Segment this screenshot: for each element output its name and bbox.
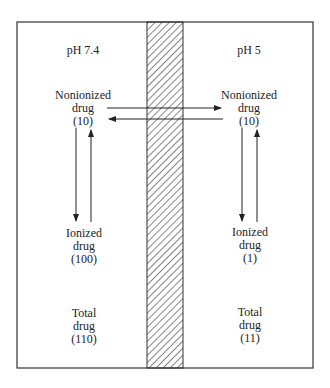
right-ionized-label: Ionized drug (1) xyxy=(200,226,300,265)
left-ph-label: pH 7.4 xyxy=(33,44,133,57)
membrane xyxy=(147,22,183,368)
left-total-label: Total drug (110) xyxy=(34,307,134,346)
right-total-label: Total drug (11) xyxy=(200,306,300,345)
right-nonionized-label: Nonionized drug (10) xyxy=(199,89,299,128)
right-ph-label: pH 5 xyxy=(199,44,299,57)
left-nonionized-label: Nonionized drug (10) xyxy=(33,89,133,128)
left-ionized-label: Ionized drug (100) xyxy=(34,227,134,266)
